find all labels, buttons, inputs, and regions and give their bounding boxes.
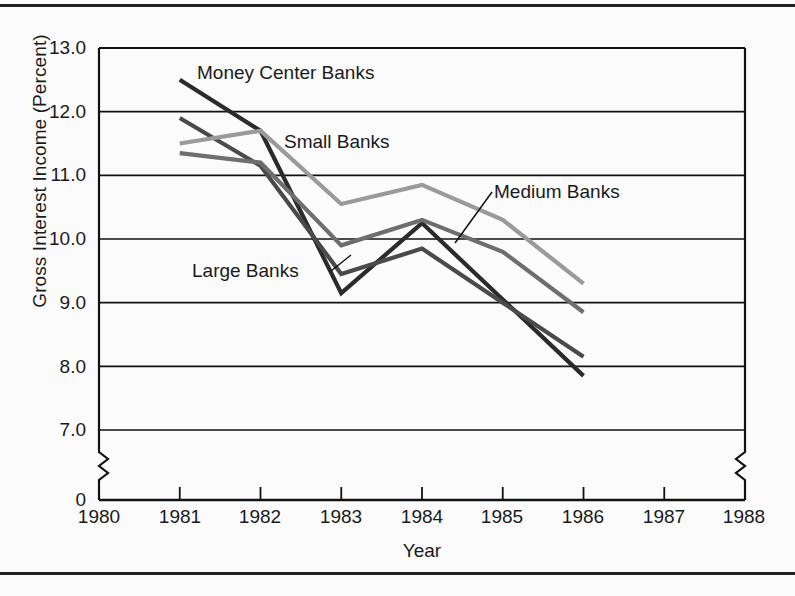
gridline-group [99,48,745,430]
series-line-medium-banks [180,153,584,312]
y-axis-right-with-break [736,48,745,500]
plot-area [0,0,795,596]
data-series-group [180,80,584,376]
tick-mark-group [180,487,665,500]
chart-figure: Gross Interest Income (Percent) Year 13.… [0,0,795,596]
series-line-money-center-banks [180,80,584,376]
y-axis-left-with-break [99,48,108,500]
axis-frame [99,48,745,500]
